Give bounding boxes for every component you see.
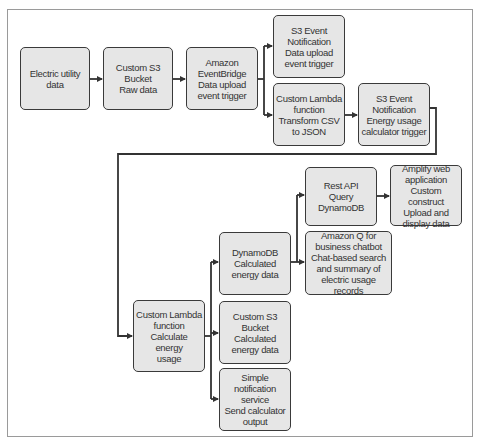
node-label: Amazon EventBridge Data upload event tri… bbox=[198, 57, 247, 101]
node-label: Electric utility data bbox=[30, 68, 81, 90]
node-amazon-eventbridge[interactable]: Amazon EventBridge Data upload event tri… bbox=[186, 47, 258, 110]
node-sns[interactable]: Simple notification service Send calcula… bbox=[219, 368, 291, 431]
node-label: Custom Lambda function Calculate energy … bbox=[136, 309, 202, 364]
node-label: Amplify web application Custom construct… bbox=[393, 163, 459, 229]
node-label: DynamoDB Calculated energy data bbox=[232, 247, 279, 280]
node-label: Simple notification service Send calcula… bbox=[225, 372, 286, 427]
node-rest-api[interactable]: Rest API Query DynamoDB bbox=[305, 167, 377, 226]
node-label: Amazon Q for business chatbot Chat-based… bbox=[308, 230, 389, 296]
node-label: Custom S3 Bucket Raw data bbox=[116, 62, 160, 95]
node-amazon-q-chatbot[interactable]: Amazon Q for business chatbot Chat-based… bbox=[305, 231, 392, 295]
node-lambda-transform-csv[interactable]: Custom Lambda function Transform CSV to … bbox=[273, 83, 345, 146]
node-label: Custom S3 Bucket Calculated energy data bbox=[222, 311, 288, 355]
node-dynamodb-calculated[interactable]: DynamoDB Calculated energy data bbox=[219, 232, 291, 295]
node-s3-calculated[interactable]: Custom S3 Bucket Calculated energy data bbox=[219, 301, 291, 364]
node-electric-utility-data[interactable]: Electric utility data bbox=[20, 47, 90, 110]
node-label: Rest API Query DynamoDB bbox=[318, 180, 364, 213]
node-s3-event-energy-trigger[interactable]: S3 Event Notification Energy usage calcu… bbox=[358, 83, 430, 146]
node-label: S3 Event Notification Energy usage calcu… bbox=[362, 93, 427, 137]
node-custom-s3-raw-data[interactable]: Custom S3 Bucket Raw data bbox=[103, 47, 173, 110]
node-label: S3 Event Notification Data upload event … bbox=[285, 25, 334, 69]
node-lambda-calculate-energy[interactable]: Custom Lambda function Calculate energy … bbox=[133, 300, 205, 372]
node-s3-event-data-upload[interactable]: S3 Event Notification Data upload event … bbox=[273, 15, 345, 78]
node-label: Custom Lambda function Transform CSV to … bbox=[276, 93, 342, 137]
node-amplify-web-app[interactable]: Amplify web application Custom construct… bbox=[390, 165, 462, 226]
